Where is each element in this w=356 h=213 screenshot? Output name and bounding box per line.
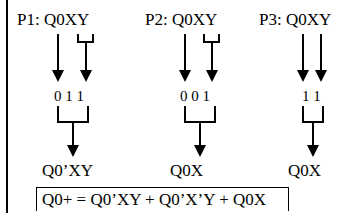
arrow-connectors — [0, 0, 356, 213]
next-state-equation: Q0+ = Q0’XY + Q0’X’Y + Q0X — [42, 190, 266, 210]
